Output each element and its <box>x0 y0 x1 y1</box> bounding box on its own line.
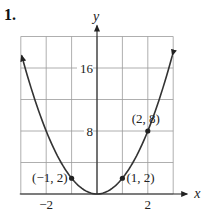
y-tick-label: 8 <box>87 124 94 139</box>
data-point <box>120 176 125 181</box>
y-axis-label: y <box>91 9 100 24</box>
y-tick-label: 16 <box>80 61 94 76</box>
parabola-chart: xy −22816 (−1, 2)(1, 2)(2, 8) <box>0 0 207 220</box>
data-point <box>145 128 150 133</box>
tick-labels: −22816 <box>39 61 151 212</box>
x-tick-label: −2 <box>39 197 53 212</box>
point-label: (−1, 2) <box>32 170 68 185</box>
data-point <box>69 176 74 181</box>
point-label: (2, 8) <box>132 111 160 126</box>
point-label: (1, 2) <box>126 170 154 185</box>
x-tick-label: 2 <box>145 197 152 212</box>
x-axis-label: x <box>193 186 201 201</box>
